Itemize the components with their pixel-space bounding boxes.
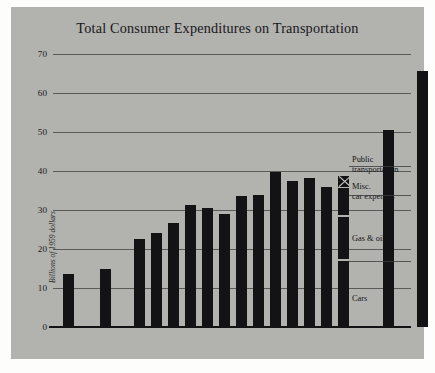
gridline-60 <box>53 93 411 94</box>
ytick-label-60: 60 <box>13 88 47 98</box>
segment-divider-cars-gas <box>338 259 349 261</box>
ytick-label-20: 20 <box>13 244 47 254</box>
ytick-label-40: 40 <box>13 166 47 176</box>
callout-public-transportation: Public transportation <box>352 155 399 175</box>
callout-cars: Cars <box>352 294 367 304</box>
plot-area: 70 60 50 40 30 20 10 0 1 <box>53 54 411 327</box>
callout-misc-line1: Misc. <box>352 182 395 192</box>
bar-1970-projected <box>417 71 428 327</box>
leader-line-misc-pub <box>349 166 411 167</box>
ytick-label-30: 30 <box>13 205 47 215</box>
bar-1951 <box>202 208 213 327</box>
bar-1948 <box>151 233 162 327</box>
bar-1947 <box>134 239 145 327</box>
bar-1956 <box>287 181 298 327</box>
callout-gas-and-oil: Gas & oil <box>352 234 385 244</box>
bar-1957 <box>304 178 315 327</box>
bar-1952 <box>219 214 230 327</box>
ytick-label-0: 0 <box>13 322 47 332</box>
bar-1955 <box>270 172 281 327</box>
ytick-label-10: 10 <box>13 283 47 293</box>
bar-1958 <box>321 187 332 327</box>
callout-public-line1: Public <box>352 155 399 165</box>
bar-1959-stacked <box>338 176 349 327</box>
gridline-70 <box>53 54 411 55</box>
gridline-20 <box>53 249 411 250</box>
x-axis-baseline <box>49 326 411 328</box>
bar-1940 <box>100 269 111 328</box>
bar-1954 <box>253 195 264 327</box>
leader-line-cars-gas <box>349 261 411 262</box>
leader-line-gas-misc <box>349 195 411 196</box>
bar-1953 <box>236 196 247 327</box>
public-transportation-swatch <box>338 176 349 187</box>
bar-1949 <box>168 223 179 327</box>
callout-misc-line2: car expenses <box>352 192 395 202</box>
gridline-30 <box>53 210 411 211</box>
chart-figure: Total Consumer Expenditures on Transport… <box>11 7 424 359</box>
bar-1929 <box>63 274 74 327</box>
y-axis-label: Billions of 1959 dollars <box>48 172 57 322</box>
ytick-label-70: 70 <box>13 49 47 59</box>
segment-divider-gas-misc <box>338 215 349 217</box>
ytick-label-50: 50 <box>13 127 47 137</box>
segment-divider-misc-pub <box>338 187 349 189</box>
gridline-50 <box>53 132 411 133</box>
bar-1950 <box>185 205 196 328</box>
callout-misc-car-expenses: Misc. car expenses <box>352 182 395 202</box>
chart-title: Total Consumer Expenditures on Transport… <box>11 20 424 37</box>
